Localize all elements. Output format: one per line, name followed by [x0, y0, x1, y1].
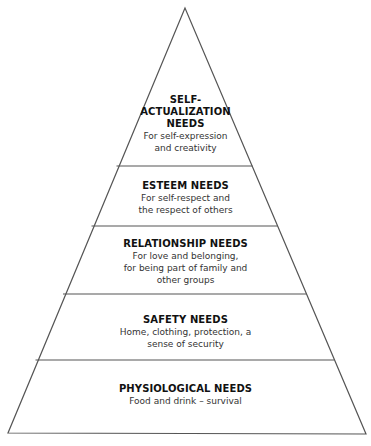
tier-title: SAFETY NEEDS: [0, 314, 371, 326]
tier-title: PHYSIOLOGICAL NEEDS: [0, 383, 371, 395]
tier-relationship: RELATIONSHIP NEEDS For love and belongin…: [0, 238, 371, 286]
tier-esteem: ESTEEM NEEDS For self-respect and the re…: [0, 180, 371, 216]
tier-title: ESTEEM NEEDS: [0, 180, 371, 192]
tier-description: For love and belonging, for being part o…: [0, 250, 371, 286]
tier-physiological: PHYSIOLOGICAL NEEDS Food and drink – sur…: [0, 383, 371, 407]
tier-description: Food and drink – survival: [0, 395, 371, 407]
tier-self-actualization: SELF- ACTUALIZATION NEEDS For self-expre…: [0, 94, 371, 154]
tier-title: RELATIONSHIP NEEDS: [0, 238, 371, 250]
tier-safety: SAFETY NEEDS Home, clothing, protection,…: [0, 314, 371, 350]
tier-description: Home, clothing, protection, a sense of s…: [0, 326, 371, 350]
tier-description: For self-expression and creativity: [0, 130, 371, 154]
tier-description: For self-respect and the respect of othe…: [0, 192, 371, 216]
pyramid-outline: [0, 0, 371, 446]
tier-title: SELF- ACTUALIZATION NEEDS: [0, 94, 371, 130]
